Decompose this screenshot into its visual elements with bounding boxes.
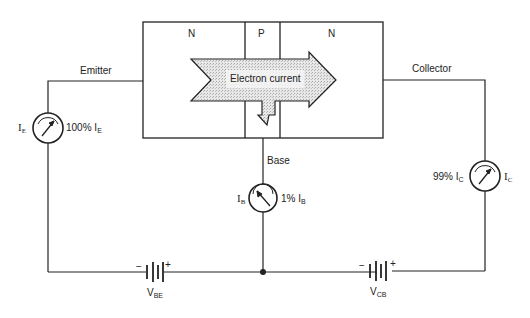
ie-percent-label: 100% IE [66, 123, 102, 134]
electron-current-label: Electron current [230, 74, 301, 84]
emitter-label: Emitter [80, 66, 112, 76]
collector-ammeter-icon [470, 161, 500, 191]
vcb-label: VCB [370, 287, 386, 298]
vcb-minus-sign: − [359, 261, 365, 271]
ib-label: IB [237, 193, 245, 206]
vbe-plus-sign: + [165, 260, 171, 270]
ic-percent-label: 99% IC [433, 172, 464, 183]
vcb-plus-sign: + [390, 259, 396, 269]
base-label: Base [267, 156, 290, 166]
ib-percent-label: 1% IB [281, 194, 306, 205]
emitter-ammeter-icon [33, 113, 63, 143]
vbe-label: VBE [147, 288, 163, 299]
vbe-minus-sign: − [136, 262, 142, 272]
ie-label: IE [18, 122, 26, 135]
circuit-diagram [0, 0, 530, 318]
electron-current-arrow [191, 52, 336, 125]
base-ammeter-icon [249, 184, 277, 212]
emitter-region-label: N [188, 29, 195, 39]
collector-region-label: N [328, 29, 335, 39]
vcb-battery-icon [370, 261, 386, 281]
ic-label: IC [504, 171, 512, 184]
base-region-label: P [258, 29, 265, 39]
junction-dot [260, 269, 266, 275]
vbe-battery-icon [147, 262, 163, 282]
collector-label: Collector [412, 64, 451, 74]
